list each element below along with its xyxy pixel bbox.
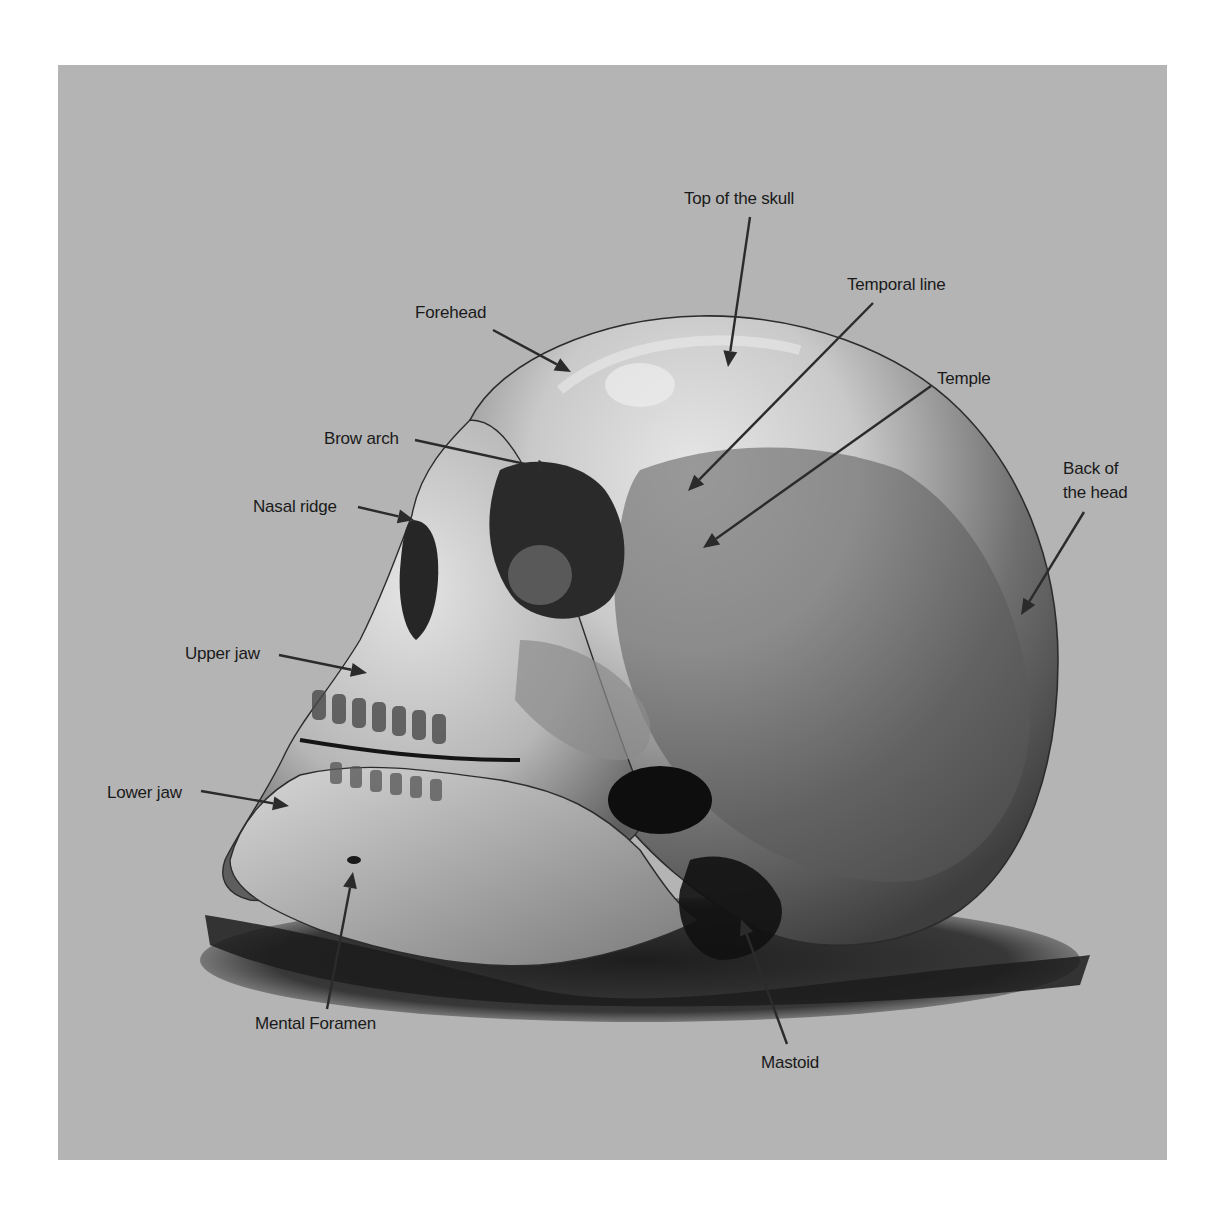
label-text: Brow arch (324, 429, 399, 448)
label-text: Mastoid (761, 1053, 819, 1072)
eye-socket-inner (508, 545, 572, 605)
skull-drawing: Top of the skullTemporal lineForeheadTem… (0, 0, 1227, 1229)
label-text: Mental Foramen (255, 1014, 376, 1033)
label-text: Forehead (415, 303, 486, 322)
mental-foramen-hole (347, 856, 361, 864)
cranium-hotspot (605, 363, 675, 407)
skull-anatomy-figure: Top of the skullTemporal lineForeheadTem… (0, 0, 1227, 1229)
label-nasal-ridge: Nasal ridge (253, 497, 414, 523)
ear-canal-shadow (608, 766, 712, 834)
label-text: Back of (1063, 459, 1119, 478)
label-text: the head (1063, 483, 1128, 502)
label-text: Upper jaw (185, 644, 261, 663)
label-text: Lower jaw (107, 783, 183, 802)
leader-line (279, 655, 351, 670)
leader-line (493, 330, 557, 364)
label-text: Temple (937, 369, 991, 388)
label-text: Top of the skull (684, 189, 794, 208)
label-text: Nasal ridge (253, 497, 337, 516)
label-text: Temporal line (847, 275, 946, 294)
leader-line (358, 507, 398, 516)
